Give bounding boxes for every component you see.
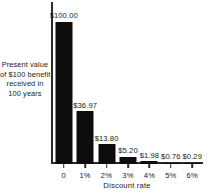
- x-axis-tick: [149, 164, 151, 168]
- bar-group: $100.000: [53, 2, 74, 164]
- bar-group: $36.971%: [74, 2, 95, 164]
- x-axis-tick-label: 6%: [187, 171, 198, 180]
- x-axis-tick-label: 0: [61, 171, 65, 180]
- x-axis-tick-label: 1%: [79, 171, 90, 180]
- bar-group: $1.984%: [139, 2, 160, 164]
- x-axis-tick-label: 4%: [144, 171, 155, 180]
- x-axis-tick-label: 3%: [122, 171, 133, 180]
- y-axis-label-line: Present value: [0, 60, 50, 70]
- y-axis-label-line: of $100 benefit: [0, 70, 50, 80]
- y-axis-label-line: received in: [0, 79, 50, 89]
- x-axis-tick: [170, 164, 172, 168]
- bar-value-label: $13.80: [95, 135, 119, 143]
- x-axis-tick: [106, 164, 108, 168]
- plot-area: $100.000$36.971%$13.802%$5.203%$1.984%$0…: [53, 2, 203, 164]
- y-axis-label: Present value of $100 benefit received i…: [0, 60, 50, 98]
- bar-group: $13.802%: [96, 2, 117, 164]
- x-axis-title: Discount rate: [51, 181, 203, 190]
- bar[interactable]: [55, 22, 72, 164]
- bar-value-label: $0.29: [183, 153, 203, 161]
- x-axis-tick-label: 2%: [101, 171, 112, 180]
- bar-group: $0.765%: [160, 2, 181, 164]
- x-axis-tick-label: 5%: [165, 171, 176, 180]
- bar-value-label: $5.20: [118, 147, 138, 155]
- bar-value-label: $0.76: [161, 153, 181, 161]
- bar-group: $0.296%: [182, 2, 203, 164]
- bar-chart: Present value of $100 benefit received i…: [0, 0, 209, 196]
- x-axis-tick: [63, 164, 65, 168]
- bar-value-label: $1.98: [140, 152, 160, 160]
- bar[interactable]: [98, 144, 115, 164]
- x-axis-tick: [191, 164, 193, 168]
- bar-group: $5.203%: [117, 2, 138, 164]
- bar[interactable]: [77, 111, 94, 164]
- x-axis-tick: [84, 164, 86, 168]
- bar-value-label: $36.97: [73, 102, 97, 110]
- bar[interactable]: [119, 157, 136, 164]
- x-axis-tick: [127, 164, 129, 168]
- y-axis-label-line: 100 years: [0, 89, 50, 99]
